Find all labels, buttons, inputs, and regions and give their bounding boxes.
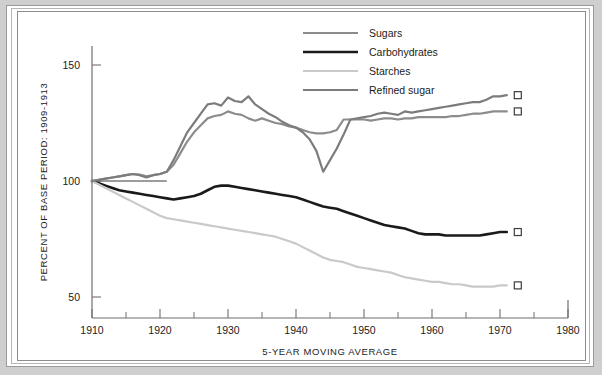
y-tick-label-150: 150 [62,59,80,71]
series-line-sugars [92,111,507,181]
x-tick-label-1910: 1910 [80,324,104,336]
legend-label-sugars: Sugars [369,27,402,39]
end-marker-sugars [514,108,521,115]
x-tick-label-1960: 1960 [420,324,444,336]
series-line-refined-sugar [92,95,507,181]
legend-label-refined-sugar: Refined sugar [369,84,435,96]
y-tick-label-50: 50 [68,291,80,303]
x-tick-label-1930: 1930 [216,324,240,336]
line-chart: 5010015019101920193019401950196019701980… [0,0,602,375]
end-marker-carbohydrates [514,229,521,236]
x-tick-label-1950: 1950 [352,324,376,336]
end-marker-refined-sugar [514,92,521,99]
end-marker-starches [514,282,521,289]
legend-label-starches: Starches [369,65,410,77]
x-tick-label-1920: 1920 [148,324,172,336]
x-axis-title: 5-YEAR MOVING AVERAGE [262,346,397,357]
legend-label-carbohydrates: Carbohydrates [369,46,438,58]
chart-screenshot: 5010015019101920193019401950196019701980… [0,0,602,375]
x-tick-label-1980: 1980 [556,324,580,336]
series-line-carbohydrates [92,181,507,236]
x-tick-label-1970: 1970 [488,324,512,336]
y-tick-label-100: 100 [62,175,80,187]
x-tick-label-1940: 1940 [284,324,308,336]
y-axis-title: PERCENT OF BASE PERIOD: 1909-1913 [38,83,49,282]
